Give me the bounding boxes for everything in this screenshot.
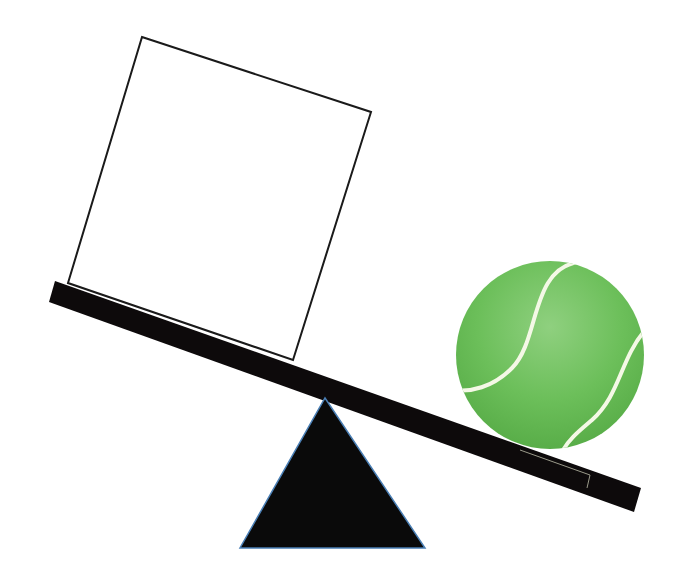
tennis-ball [455,261,645,452]
seesaw-diagram [0,0,683,570]
